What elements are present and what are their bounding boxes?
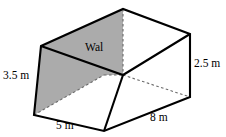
hidden-edge-floor-right — [123, 75, 190, 97]
dimension-label-depth: 5 m — [56, 120, 74, 132]
dimension-label-height: 3.5 m — [3, 70, 29, 82]
diagram-canvas: Wal 3.5 m 5 m 8 m 2.5 m — [0, 0, 226, 137]
edge-inner-vertical-front — [104, 75, 123, 131]
dimension-label-right-height: 2.5 m — [194, 58, 220, 70]
cuboid-room-figure — [0, 0, 226, 137]
wall-face-label: Wal — [85, 42, 103, 54]
dimension-label-width: 8 m — [150, 112, 168, 124]
